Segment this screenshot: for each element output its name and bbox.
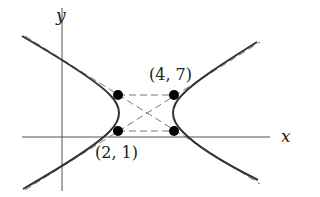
hyperbola-right-branch bbox=[173, 42, 258, 180]
point-label-4-7: (4, 7) bbox=[149, 65, 192, 84]
point-label-2-1: (2, 1) bbox=[95, 143, 138, 162]
point-top-left bbox=[113, 90, 123, 100]
hyperbola-diagram: y x (4, 7) (2, 1) bbox=[0, 0, 320, 197]
point-bottom-left bbox=[113, 126, 123, 136]
x-axis-label: x bbox=[281, 126, 291, 146]
hyperbola-left-branch bbox=[22, 36, 119, 189]
y-axis-label: y bbox=[55, 5, 66, 25]
point-bottom-right bbox=[169, 126, 179, 136]
point-top-right bbox=[169, 90, 179, 100]
